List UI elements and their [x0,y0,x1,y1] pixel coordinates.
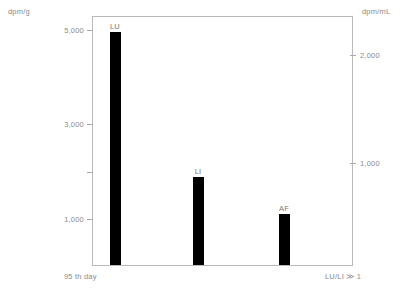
right-tick-label-1000: 1,000 [360,159,380,168]
plot-area: LU LI AF [92,16,353,266]
bar-label-af: AF [264,204,304,213]
right-tick-2000 [350,55,356,56]
left-tick-3000 [87,124,93,125]
bar-chart-figure: dpm/g dpm/mL LU LI AF 5,000 3,000 1,000 … [0,0,407,294]
right-axis-unit-label: dpm/mL [362,7,390,16]
bar-af [279,214,290,265]
bar-lu [110,32,121,265]
bottom-left-annotation: 95 th day [64,272,97,281]
left-tick-2000 [87,172,93,173]
bar-label-lu: LU [95,22,135,31]
right-tick-label-2000: 2,000 [360,51,380,60]
left-axis-unit-label: dpm/g [8,7,30,16]
left-tick-5000 [87,30,93,31]
bar-label-li: LI [178,167,218,176]
left-tick-1000 [87,219,93,220]
right-tick-1000 [350,163,356,164]
bar-li [193,177,204,265]
left-tick-label-3000: 3,000 [38,120,84,129]
left-tick-label-1000: 1,000 [38,215,84,224]
bottom-right-annotation: LU/LI ≫ 1 [325,272,361,281]
left-tick-label-5000: 5,000 [38,26,84,35]
